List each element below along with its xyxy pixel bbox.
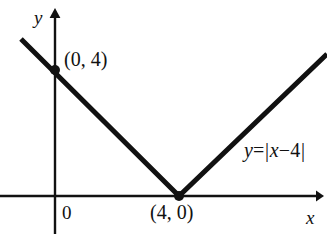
y-axis-arrowhead	[50, 8, 61, 18]
vertex-coordinate-label: (4, 0)	[150, 202, 193, 222]
x-axis-label: x	[306, 208, 314, 227]
y-axis-label: y	[34, 8, 42, 27]
equation-equals: =	[253, 139, 264, 161]
equation-minus-sign: −	[279, 139, 290, 161]
graph-canvas	[0, 0, 327, 234]
vertex-point-dot	[174, 191, 184, 201]
y-intercept-coordinate-label: (0, 4)	[64, 49, 107, 69]
y-intercept-point-dot	[50, 65, 60, 75]
equation-inner-variable: x	[270, 139, 279, 161]
equation-lhs: y	[244, 139, 253, 161]
origin-label: 0	[62, 203, 72, 222]
x-axis-arrowhead	[316, 190, 324, 201]
equation-inner-constant: 4	[290, 139, 300, 161]
absolute-value-graph-figure: y x 0 (0, 4) (4, 0) y=|x−4|	[0, 0, 327, 234]
equation-label: y=|x−4|	[244, 140, 306, 160]
equation-bar-close: |	[301, 139, 306, 161]
